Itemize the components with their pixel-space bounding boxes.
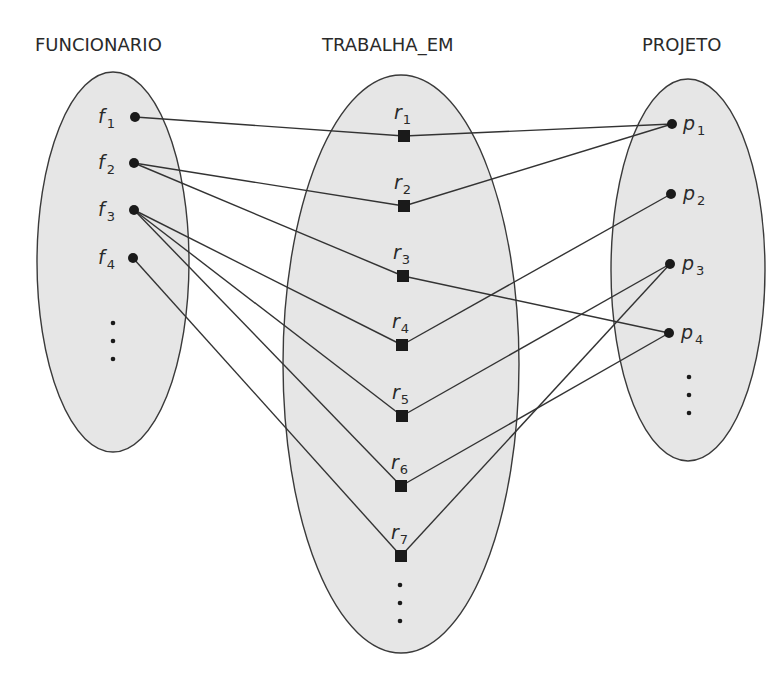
node-r1[interactable]: [398, 130, 410, 142]
node-r2[interactable]: [398, 200, 410, 212]
node-f4[interactable]: [128, 253, 138, 263]
er-instance-diagram: FUNCIONARIO TRABALHA_EM PROJETO f1 f2 f3…: [0, 0, 775, 678]
node-f1[interactable]: [130, 112, 140, 122]
node-p2[interactable]: [666, 189, 676, 199]
trabalha-em-title: TRABALHA_EM: [321, 34, 454, 56]
node-r3[interactable]: [397, 270, 409, 282]
node-r5[interactable]: [396, 410, 408, 422]
node-f2[interactable]: [129, 158, 139, 168]
node-p3[interactable]: [665, 259, 675, 269]
node-r7[interactable]: [395, 550, 407, 562]
projeto-title: PROJETO: [642, 34, 721, 55]
node-p1[interactable]: [667, 119, 677, 129]
node-r4[interactable]: [396, 339, 408, 351]
node-r6[interactable]: [395, 480, 407, 492]
node-f3[interactable]: [129, 205, 139, 215]
node-p4[interactable]: [664, 328, 674, 338]
funcionario-title: FUNCIONARIO: [35, 34, 162, 55]
trabalha-em-set-ellipse: [283, 75, 519, 653]
